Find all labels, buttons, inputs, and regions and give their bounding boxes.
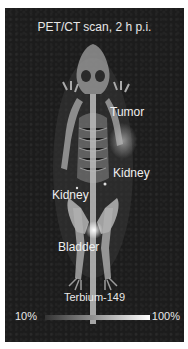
colorscale-title: Terbium-149: [5, 291, 184, 303]
label-kidney-left: Kidney: [52, 188, 89, 202]
image-title: PET/CT scan, 2 h p.i.: [5, 20, 184, 34]
label-tumor: Tumor: [110, 105, 144, 119]
colorscale-min-label: 10%: [15, 310, 37, 322]
label-bladder: Bladder: [58, 240, 99, 254]
pet-ct-image-panel: PET/CT scan, 2 h p.i. Tumor Kidney Kidne…: [5, 8, 184, 342]
label-kidney-right: Kidney: [113, 166, 150, 180]
colorscale-max-label: 100%: [152, 310, 180, 322]
colorscale-bar: [45, 315, 150, 320]
